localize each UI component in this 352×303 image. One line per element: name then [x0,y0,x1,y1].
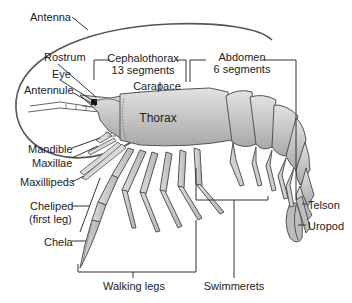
label-thorax: Thorax [139,112,176,124]
label-telson: Telson [308,199,340,211]
anatomy-diagram: Antenna Rostrum Eye Antennule Cephalotho… [0,0,352,303]
label-maxillipeds: Maxillipeds [20,176,74,188]
label-cephalothorax: Cephalothorax [107,52,179,64]
label-abdomen-segments: 6 segments [214,63,271,75]
label-cheliped-note: (first leg) [29,213,72,225]
label-swimmerets: Swimmerets [204,280,265,292]
label-chela: Chela [44,236,73,248]
label-eye: Eye [52,68,71,80]
label-abdomen: Abdomen [218,51,265,63]
label-mandible: Mandible [28,143,73,155]
label-cephalothorax-segments: 13 segments [112,64,175,76]
walking-legs-shape [122,148,224,232]
label-uropod: Uropod [308,220,344,232]
label-cheliped: Cheliped [30,200,73,212]
label-rostrum: Rostrum [44,51,86,63]
label-walking-legs: Walking legs [103,280,165,292]
label-antennule: Antennule [24,84,74,96]
label-antenna: Antenna [30,11,71,23]
label-carapace: Carapace [133,80,181,92]
label-maxillae: Maxillae [32,157,72,169]
